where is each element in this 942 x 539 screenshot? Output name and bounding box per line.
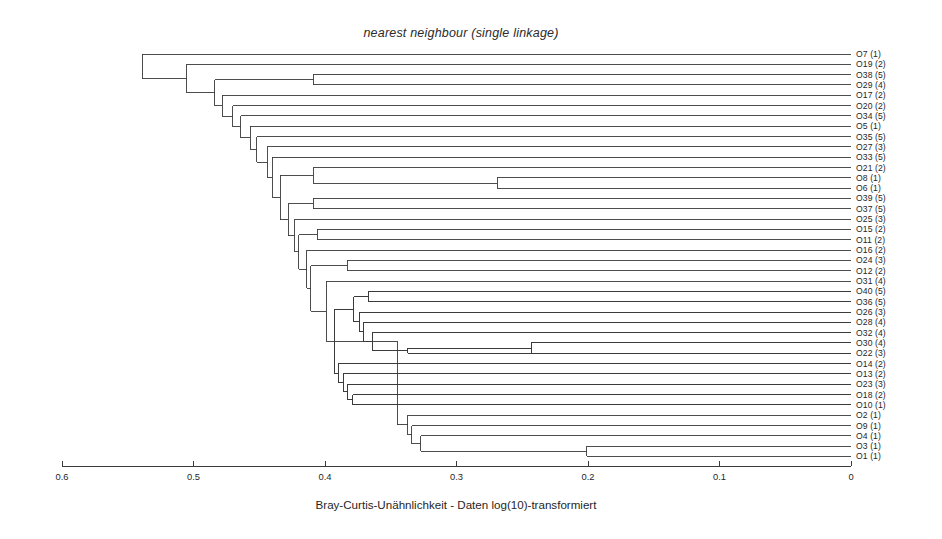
x-tick-label: 0 xyxy=(848,471,853,482)
dendrogram-figure: nearest neighbour (single linkage) O7 (1… xyxy=(0,0,942,539)
x-tick-label: 0.2 xyxy=(581,471,594,482)
x-tick-label: 0.1 xyxy=(713,471,726,482)
x-tick-label: 0.6 xyxy=(55,471,68,482)
x-tick-label: 0.3 xyxy=(450,471,463,482)
x-axis-tick-labels: 0.60.50.40.30.20.10 xyxy=(0,0,942,539)
x-axis-title: Bray-Curtis-Unähnlichkeit - Daten log(10… xyxy=(0,498,927,511)
x-tick-label: 0.5 xyxy=(187,471,200,482)
x-tick-label: 0.4 xyxy=(318,471,331,482)
